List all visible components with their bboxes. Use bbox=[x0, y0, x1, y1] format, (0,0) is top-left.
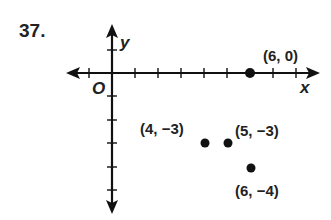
point-6-neg4 bbox=[247, 164, 256, 173]
point-4-neg3 bbox=[201, 139, 210, 148]
point-label-4-neg3: (4, −3) bbox=[140, 120, 184, 137]
point-label-5-neg3: (5, −3) bbox=[235, 122, 279, 139]
point-6-0 bbox=[245, 68, 255, 78]
x-axis-label: x bbox=[299, 78, 311, 97]
origin-label: O bbox=[92, 79, 105, 98]
point-5-neg3 bbox=[224, 139, 233, 148]
point-label-6-neg4: (6, −4) bbox=[235, 182, 279, 199]
x-axis bbox=[66, 67, 320, 79]
point-label-6-0: (6, 0) bbox=[263, 47, 298, 64]
y-axis-label: y bbox=[119, 33, 131, 52]
y-axis bbox=[106, 24, 118, 214]
coordinate-plane: y x O (6, 0) (4, −3) (5, −3) (6, −4) bbox=[0, 0, 331, 220]
